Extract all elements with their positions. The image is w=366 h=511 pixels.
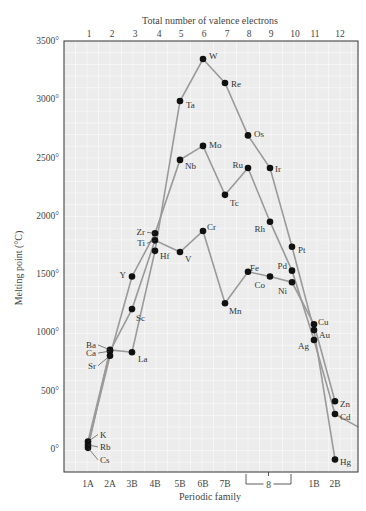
data-point-pt <box>289 243 296 250</box>
point-label-sr: Sr <box>88 361 96 371</box>
point-label-ti: Ti <box>137 238 145 248</box>
data-point-ag <box>311 337 318 344</box>
data-point-re <box>222 80 229 87</box>
bottom-tick-label: 2A <box>104 479 116 489</box>
data-point-ta <box>177 98 184 105</box>
y-tick-label: 1500° <box>36 269 59 279</box>
data-point-ba <box>107 347 114 354</box>
top-tick-label: 11 <box>310 29 319 39</box>
point-label-cr: Cr <box>207 222 216 232</box>
data-point-y <box>129 273 136 280</box>
point-label-nb: Nb <box>185 161 196 171</box>
point-label-tc: Tc <box>230 198 239 208</box>
point-label-v: V <box>185 254 192 264</box>
data-point-ni <box>289 279 296 286</box>
top-tick-label: 4 <box>157 29 162 39</box>
top-tick-label: 12 <box>335 29 345 39</box>
bottom-tick-label: 1A <box>82 479 94 489</box>
y-tick-label: 0° <box>50 444 59 454</box>
point-label-pt: Pt <box>298 245 306 255</box>
point-label-cu: Cu <box>318 317 329 327</box>
data-point-ru <box>245 165 252 172</box>
bottom-tick-label: 5B <box>174 479 185 489</box>
data-point-cu <box>311 321 318 328</box>
top-axis-title: Total number of valence electrons <box>142 15 278 26</box>
data-point-au <box>311 327 318 334</box>
top-tick-label: 9 <box>269 29 274 39</box>
y-tick-label: 1000° <box>36 327 59 337</box>
point-label-k: K <box>100 430 107 440</box>
point-label-au: Au <box>319 330 330 340</box>
data-point-sc <box>129 306 136 313</box>
top-tick-label: 2 <box>110 29 115 39</box>
data-point-w <box>200 56 207 63</box>
point-label-cd: Cd <box>340 412 351 422</box>
point-label-ni: Ni <box>278 286 287 296</box>
top-tick-label: 6 <box>202 29 207 39</box>
point-label-ba: Ba <box>86 340 96 350</box>
top-tick-label: 1 <box>87 29 92 39</box>
y-tick-label: 3500° <box>36 36 59 46</box>
point-label-zr: Zr <box>137 227 146 237</box>
point-label-co: Co <box>254 280 265 290</box>
data-point-rh <box>267 218 274 225</box>
data-point-cr <box>200 228 207 235</box>
data-point-mn <box>222 300 229 307</box>
point-label-mn: Mn <box>229 306 242 316</box>
point-label-w: W <box>209 51 218 61</box>
point-label-pd: Pd <box>277 261 287 271</box>
point-label-sc: Sc <box>136 313 145 323</box>
top-tick-label: 10 <box>290 29 300 39</box>
bottom-tick-label: 2B <box>329 479 340 489</box>
point-label-y: Y <box>120 270 127 280</box>
point-label-ru: Ru <box>232 160 243 170</box>
point-label-rh: Rh <box>254 224 265 234</box>
point-label-la: La <box>138 354 148 364</box>
y-tick-label: 2000° <box>36 211 59 221</box>
data-point-zn <box>332 398 339 405</box>
data-point-hf <box>152 248 159 255</box>
top-tick-label: 5 <box>179 29 184 39</box>
data-point-nb <box>177 157 184 164</box>
point-label-hg: Hg <box>340 457 351 467</box>
top-axis-ticks: 123456789101112 <box>87 29 345 39</box>
data-point-ir <box>267 165 274 172</box>
melting-point-chart: KCaScTiVCrMnFeCoNiCuZnRbSrYZrNbMoTcRuRhP… <box>0 0 366 511</box>
point-label-fe: Fe <box>250 263 259 273</box>
point-label-hf: Hf <box>160 251 170 261</box>
data-point-tc <box>222 192 229 199</box>
point-label-cs: Cs <box>100 455 110 465</box>
point-label-os: Os <box>254 129 264 139</box>
bottom-tick-label: 6B <box>197 479 208 489</box>
data-point-cd <box>332 411 339 418</box>
y-tick-label: 2500° <box>36 153 59 163</box>
data-point-hg <box>332 456 339 463</box>
data-point-pd <box>289 267 296 274</box>
top-tick-label: 8 <box>247 29 252 39</box>
y-tick-label: 500° <box>41 386 59 396</box>
bottom-tick-label: 7B <box>219 479 230 489</box>
y-axis-title: Melting point (°C) <box>13 231 25 306</box>
data-point-v <box>177 249 184 256</box>
x-axis-title: Periodic family <box>179 491 241 502</box>
point-label-rb: Rb <box>100 442 111 452</box>
top-tick-label: 7 <box>225 29 230 39</box>
data-point-la <box>129 349 136 356</box>
point-label-re: Re <box>231 79 241 89</box>
data-point-co <box>267 273 274 280</box>
y-tick-label: 3000° <box>36 94 59 104</box>
data-point-os <box>245 132 252 139</box>
bottom-tick-label: 1B <box>308 479 319 489</box>
y-axis-ticks: 3500°3000°2500°2000°1500°1000°500°0° <box>36 36 59 454</box>
bottom-tick-label: 3B <box>126 479 137 489</box>
point-label-mo: Mo <box>209 140 222 150</box>
top-tick-label: 3 <box>133 29 138 39</box>
bottom-axis-ticks: 1A2A3B4B5B6B7B1B2B8 <box>82 472 340 490</box>
point-label-ta: Ta <box>186 100 195 110</box>
bracket-label: 8 <box>266 480 271 490</box>
point-label-zn: Zn <box>340 399 350 409</box>
point-label-ir: Ir <box>275 164 281 174</box>
bottom-tick-label: 4B <box>149 479 160 489</box>
point-label-ag: Ag <box>298 341 309 351</box>
data-point-mo <box>200 143 207 150</box>
